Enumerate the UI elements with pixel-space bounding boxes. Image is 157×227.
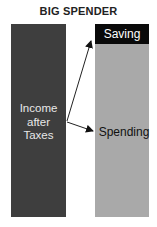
- arrow-to-saving-icon: [67, 41, 91, 121]
- arrow-to-spending-icon: [67, 122, 93, 131]
- arrows: [0, 0, 157, 227]
